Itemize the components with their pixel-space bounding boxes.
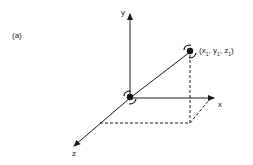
position-vector	[130, 52, 190, 98]
projection-lines	[100, 55, 210, 123]
point-coordinates-label: (x1, y1, z1)	[199, 46, 234, 57]
coord-sub: 1	[217, 51, 220, 57]
z-axis-label: z	[72, 149, 76, 158]
panel-label: (a)	[12, 31, 22, 40]
coordinate-diagram: (a) y x z (x1, y1, z1)	[0, 0, 253, 165]
axes-drawing	[0, 0, 253, 165]
x-axis-label: x	[218, 100, 222, 109]
coord-sub: 1	[206, 51, 209, 57]
y-axis-label: y	[121, 8, 125, 17]
coord-sub: 1	[228, 51, 231, 57]
z-axis	[74, 98, 130, 146]
